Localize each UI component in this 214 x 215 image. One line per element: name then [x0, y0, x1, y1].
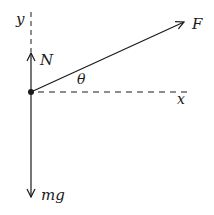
- weight-force-label: mg: [41, 186, 65, 204]
- angle-label: θ: [77, 71, 86, 87]
- applied-force-label: F: [191, 15, 203, 33]
- applied-force-arrow: [31, 22, 184, 92]
- x-axis-label: x: [177, 91, 185, 107]
- origin-point: [28, 89, 34, 95]
- free-body-diagram: y x N F mg θ: [0, 0, 214, 215]
- normal-force-label: N: [39, 51, 54, 69]
- y-axis-label: y: [15, 10, 25, 28]
